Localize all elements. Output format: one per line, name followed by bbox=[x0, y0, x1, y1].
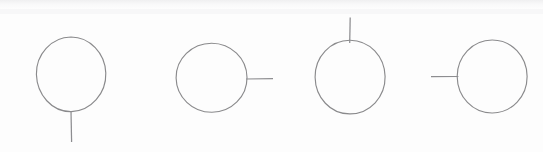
line-segment-1 bbox=[71, 111, 72, 142]
shape-circle-with-left-line bbox=[431, 40, 527, 113]
circle-outline-1 bbox=[36, 37, 105, 112]
line-segment-3 bbox=[350, 18, 351, 44]
figure-canvas: Circle with attached line segment, four … bbox=[0, 0, 543, 152]
shape-circle-with-right-line bbox=[176, 43, 273, 112]
circle-outline-4 bbox=[457, 40, 527, 113]
shape-circle-with-bottom-line bbox=[36, 37, 105, 142]
circle-outline-3 bbox=[315, 40, 385, 114]
figure-svg: Circle with attached line segment, four … bbox=[0, 0, 543, 152]
circle-outline-2 bbox=[176, 43, 247, 112]
shape-circle-with-top-line bbox=[315, 18, 385, 114]
